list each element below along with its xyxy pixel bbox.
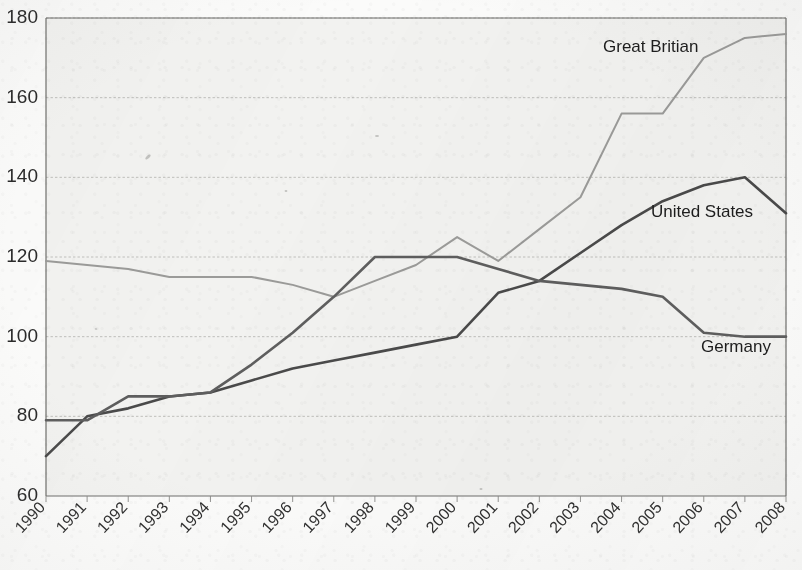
x-tick-label-2006: 2006 — [669, 498, 706, 536]
x-tick-label-1999: 1999 — [381, 498, 418, 536]
x-tick-label-2003: 2003 — [546, 498, 583, 536]
series-annotation-great-britian: Great Britian — [603, 37, 698, 56]
y-tick-label-80: 80 — [17, 404, 38, 425]
x-tick-label-2000: 2000 — [423, 498, 460, 536]
x-tick-label-1992: 1992 — [94, 498, 131, 536]
series-annotation-germany: Germany — [701, 337, 771, 356]
y-tick-label-180: 180 — [6, 6, 38, 27]
chart-canvas: 1801601401201008060 19901991199219931994… — [0, 0, 802, 570]
x-tick-label-2005: 2005 — [628, 498, 665, 536]
x-tick-label-2004: 2004 — [587, 498, 624, 536]
y-axis-tick-labels: 1801601401201008060 — [6, 6, 38, 505]
x-tick-label-1993: 1993 — [135, 498, 172, 536]
x-tick-label-1995: 1995 — [217, 498, 254, 536]
x-tick-label-2002: 2002 — [505, 498, 542, 536]
y-tick-label-120: 120 — [6, 245, 38, 266]
x-tick-label-1996: 1996 — [258, 498, 295, 536]
x-tick-label-1994: 1994 — [176, 498, 213, 536]
x-tick-label-1998: 1998 — [340, 498, 377, 536]
y-tick-label-100: 100 — [6, 325, 38, 346]
x-tick-label-2008: 2008 — [751, 498, 788, 536]
x-axis-tick-labels: 1990199119921993199419951996199719981999… — [11, 498, 788, 536]
line-chart: 1801601401201008060 19901991199219931994… — [0, 0, 802, 570]
x-tick-label-2007: 2007 — [710, 498, 747, 536]
x-tick-label-1991: 1991 — [53, 498, 90, 536]
x-tick-label-2001: 2001 — [464, 498, 501, 536]
y-tick-label-160: 160 — [6, 86, 38, 107]
series-annotation-united-states: United States — [651, 202, 753, 221]
x-tick-label-1997: 1997 — [299, 498, 336, 536]
y-tick-label-140: 140 — [6, 165, 38, 186]
